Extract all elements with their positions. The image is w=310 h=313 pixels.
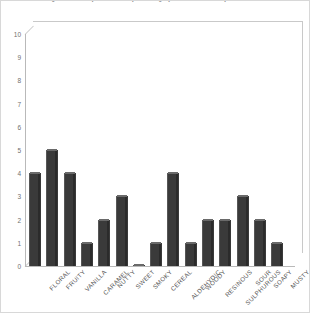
caption-text: a sensory descriptor frequency profile s… — [9, 1, 309, 2]
bar-top-face — [220, 219, 230, 221]
bar-side-face — [38, 173, 40, 266]
bar-side-face — [107, 220, 109, 266]
bar-top-face — [65, 172, 75, 174]
y-axis-tick: 0 — [7, 263, 21, 270]
x-axis-category-labels: FLORALFRUITYVANILLACARAMELNUTTYSWEETSMOK… — [25, 268, 310, 313]
bar-chart-figure: a sensory descriptor frequency profile s… — [0, 0, 310, 313]
bar-side-face — [90, 243, 92, 266]
bar-side-face — [176, 173, 178, 266]
bar-top-face — [47, 149, 57, 151]
bar-side-face — [246, 196, 248, 266]
bar-top-face — [272, 242, 282, 244]
y-axis-tick: 1 — [7, 239, 21, 246]
bar-side-face — [228, 220, 230, 266]
bar-side-face — [263, 220, 265, 266]
bar-side-face — [55, 150, 57, 266]
plot-area: 109876543210 — [23, 21, 305, 266]
bar-side-face — [125, 196, 127, 266]
bar-top-face — [238, 195, 248, 197]
bar-side-face — [159, 243, 161, 266]
y-axis-tick: 5 — [7, 147, 21, 154]
x-axis-line — [25, 266, 295, 267]
cropped-caption: a sensory descriptor frequency profile s… — [1, 1, 310, 12]
bar-side-face — [211, 220, 213, 266]
y-axis-tick: 3 — [7, 193, 21, 200]
y-axis-tick: 10 — [7, 31, 21, 38]
bar-top-face — [255, 219, 265, 221]
bar-top-face — [30, 172, 40, 174]
y-axis-tick: 7 — [7, 100, 21, 107]
x-axis-label: RESINOUS — [223, 268, 253, 298]
y-axis-tick: 9 — [7, 54, 21, 61]
bar-top-face — [117, 195, 127, 197]
bar-side-face — [194, 243, 196, 266]
bar-side-face — [280, 243, 282, 266]
bar-top-face — [99, 219, 109, 221]
bar-top-face — [82, 242, 92, 244]
bars-container — [25, 34, 295, 266]
bar-top-face — [186, 242, 196, 244]
bar-top-face — [168, 172, 178, 174]
y-axis-tick: 6 — [7, 123, 21, 130]
y-axis-tick: 4 — [7, 170, 21, 177]
bar-top-face — [134, 264, 144, 266]
bar-side-face — [73, 173, 75, 266]
y-axis-tick: 8 — [7, 77, 21, 84]
bar-top-face — [151, 242, 161, 244]
y-axis-tick: 2 — [7, 216, 21, 223]
bar-top-face — [203, 219, 213, 221]
